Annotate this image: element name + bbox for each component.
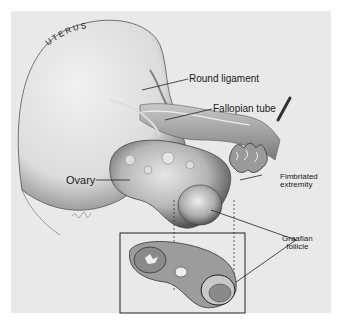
anatomy-illustration: UTERUS [0,0,346,326]
label-graafian-follicle: Graafian follicle [282,235,313,251]
label-fimbriated-line2: extremity [280,181,318,189]
fimbriated-extremity [229,143,267,173]
label-fimbriated-extremity: Fimbriated extremity [280,173,318,189]
label-round-ligament: Round ligament [189,74,259,84]
label-fallopian-tube: Fallopian tube [213,104,276,114]
cross-section-inset [120,233,245,313]
label-graafian-line2: follicle [282,243,313,251]
artist-signature [72,212,91,217]
ovary [110,140,231,228]
label-ovary: Ovary [66,175,95,185]
